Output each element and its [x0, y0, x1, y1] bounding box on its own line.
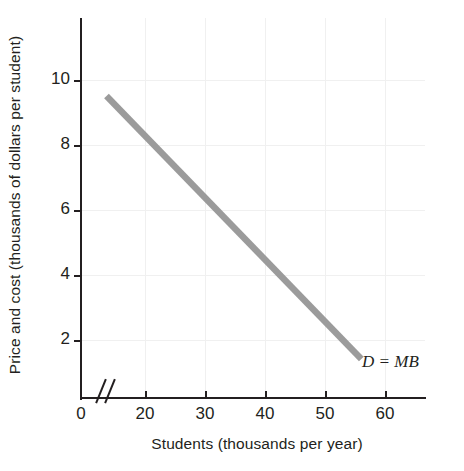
- y-axis-tick: [74, 275, 82, 277]
- y-axis-tick: [74, 340, 82, 342]
- x-axis-tick: [325, 391, 327, 399]
- x-axis-tick: [265, 391, 267, 399]
- gridline-horizontal: [81, 80, 425, 81]
- chart-figure: 10 8 6 4 2 0 20 30 40 50 60 D = MB Price…: [0, 0, 464, 471]
- x-axis-tick: [385, 391, 387, 399]
- x-axis-line: [81, 397, 426, 399]
- gridline-horizontal: [81, 275, 425, 276]
- y-axis-tick: [74, 210, 82, 212]
- x-tick-label: 50: [300, 404, 350, 424]
- y-axis-tick: [74, 80, 82, 82]
- y-axis-title: Price and cost (thousands of dollars per…: [6, 5, 30, 405]
- gridline-vertical: [265, 18, 266, 398]
- x-tick-label: 40: [240, 404, 290, 424]
- gridline-vertical: [205, 18, 206, 398]
- y-tick-label: 2: [30, 329, 70, 349]
- gridline-vertical: [385, 18, 386, 398]
- y-tick-label: 10: [30, 69, 70, 89]
- x-axis-tick: [205, 391, 207, 399]
- y-tick-label: 6: [30, 199, 70, 219]
- x-axis-tick: [145, 391, 147, 399]
- x-tick-label: 60: [360, 404, 410, 424]
- gridline-horizontal: [81, 145, 425, 146]
- x-tick-label: 20: [120, 404, 170, 424]
- x-axis-title: Students (thousands per year): [82, 435, 432, 453]
- plot-area: [81, 18, 425, 398]
- axis-break-marks: [92, 378, 128, 404]
- y-tick-label: 8: [30, 134, 70, 154]
- origin-label: 0: [56, 404, 106, 424]
- y-axis-line: [80, 18, 82, 400]
- x-tick-label: 30: [180, 404, 230, 424]
- gridline-horizontal: [81, 340, 425, 341]
- gridline-vertical: [145, 18, 146, 398]
- gridline-vertical: [325, 18, 326, 398]
- y-tick-label: 4: [30, 264, 70, 284]
- demand-curve-label: D = MB: [362, 352, 419, 372]
- y-axis-tick: [74, 145, 82, 147]
- gridline-horizontal: [81, 210, 425, 211]
